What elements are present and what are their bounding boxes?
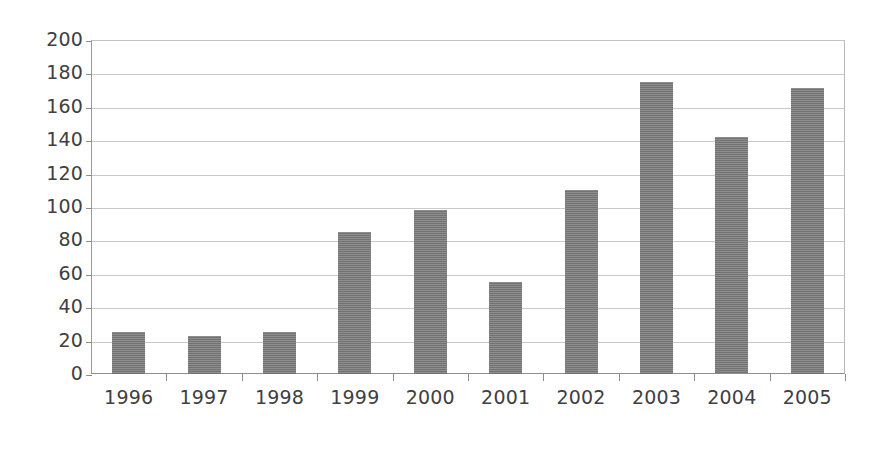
y-axis-tick-label: 200 [11,30,83,49]
x-axis-tick-label: 2001 [468,386,543,408]
y-axis-tick-label: 180 [11,63,83,82]
bar [338,232,371,374]
bar [565,190,598,374]
y-axis-tick-label: 60 [11,264,83,283]
x-axis-tick-mark [166,374,167,381]
x-axis-tick-label: 1998 [242,386,317,408]
x-axis-tick-mark [242,374,243,381]
y-axis-tick-label: 0 [11,364,83,383]
y-axis-tick-label: 140 [11,130,83,149]
bar [489,282,522,374]
x-axis-tick-label: 2003 [619,386,694,408]
y-axis-tick-label: 20 [11,331,83,350]
bar [640,82,673,374]
x-axis-tick-mark [393,374,394,381]
bar [414,210,447,374]
y-axis-tick-label: 40 [11,297,83,316]
x-axis-tick-mark [619,374,620,381]
bar-chart-figure: 200180160140120100806040200 199619971998… [0,0,873,459]
bars-layer [91,40,845,374]
x-axis-tick-label: 2004 [694,386,769,408]
bar [188,336,221,374]
y-axis-tick-label: 100 [11,197,83,216]
x-axis-tick-label: 1996 [91,386,166,408]
x-axis-tick-label: 1997 [166,386,241,408]
y-axis-tick-label: 160 [11,97,83,116]
x-axis-tick-mark [317,374,318,381]
bar [263,332,296,374]
y-axis-labels: 200180160140120100806040200 [0,0,83,459]
y-axis-tick-mark [86,375,92,376]
bar [715,137,748,374]
x-axis-tick-mark [694,374,695,381]
x-axis-tick-label: 2000 [393,386,468,408]
x-axis-tick-mark [543,374,544,381]
x-axis-tick-mark [468,374,469,381]
x-axis-tick-label: 2002 [543,386,618,408]
x-axis-tick-mark [845,374,846,381]
x-axis-tick-label: 2005 [770,386,845,408]
y-axis-tick-label: 80 [11,230,83,249]
y-axis-tick-label: 120 [11,164,83,183]
x-axis-tick-mark [770,374,771,381]
x-axis-tick-label: 1999 [317,386,392,408]
bar [791,88,824,374]
bar [112,332,145,374]
